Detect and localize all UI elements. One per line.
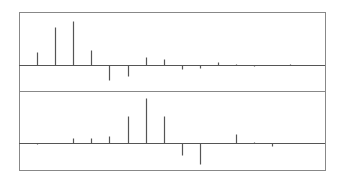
- stem-chart: [0, 0, 341, 179]
- top-panel: [19, 22, 325, 81]
- chart-frame: [19, 13, 326, 171]
- bottom-panel: [19, 99, 325, 165]
